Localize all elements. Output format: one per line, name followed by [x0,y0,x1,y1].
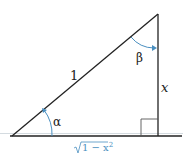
vertical-side-label: x [161,80,168,95]
right-triangle-diagram [0,0,183,163]
alpha-arc-icon [44,110,52,136]
base-exponent: 2 [109,141,113,149]
hypotenuse-line [12,14,158,136]
angle-beta-label: β [136,51,143,65]
base-sqrt-text: 1 − x [82,142,109,153]
hypotenuse-label: 1 [70,68,78,83]
base-length-label: 1 − x2 [82,141,113,153]
beta-arrowhead-icon [152,45,157,51]
beta-arc-icon [131,37,154,48]
angle-alpha-label: α [53,115,61,129]
